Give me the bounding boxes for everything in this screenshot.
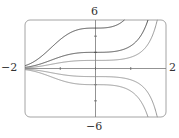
y-max-label: 6 — [91, 6, 98, 17]
x-min-label: −2 — [1, 62, 17, 73]
curve-C5 — [25, 20, 124, 66]
curve-Cneg1 — [25, 69, 158, 117]
chart-plot — [0, 0, 179, 138]
y-min-label: −6 — [86, 121, 102, 132]
curve-C1 — [25, 20, 158, 68]
x-max-label: 2 — [169, 62, 176, 73]
